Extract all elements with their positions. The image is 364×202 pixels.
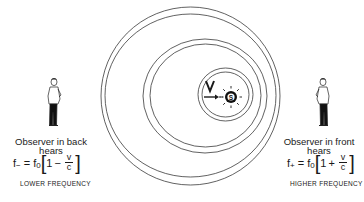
formula-operator: − xyxy=(54,157,60,169)
source-label: S xyxy=(229,94,234,101)
observer-right-formula: f + = f 0 [ 1 + v c ] xyxy=(287,153,355,172)
formula-denominator: c xyxy=(67,163,72,172)
observer-right-figure xyxy=(316,78,329,125)
wavefront-inner-2 xyxy=(202,72,249,117)
velocity-indicator xyxy=(204,81,219,100)
observer-left-result: LOWER FREQUENCY xyxy=(20,180,91,187)
velocity-arrow-head xyxy=(215,95,219,100)
wavefront-middle-2 xyxy=(150,44,261,147)
formula-lhs-subscript: − xyxy=(16,161,21,170)
wavefronts xyxy=(101,7,280,185)
formula-equals: = xyxy=(298,157,304,169)
wavefront-middle-1 xyxy=(143,39,267,153)
observer-right-result: HIGHER FREQUENCY xyxy=(290,180,363,187)
wavefront-outer-2 xyxy=(105,14,276,177)
formula-one: 1 xyxy=(46,157,52,169)
velocity-v-glyph xyxy=(206,81,214,91)
formula-operator: + xyxy=(328,157,334,169)
formula-lhs-subscript: + xyxy=(290,161,295,170)
formula-fraction: v c xyxy=(65,153,74,172)
observer-left-figure xyxy=(48,78,61,125)
formula-equals: = xyxy=(24,157,30,169)
formula-open-bracket: [ xyxy=(315,153,321,172)
formula-fraction: v c xyxy=(339,153,348,172)
wavefront-inner-1 xyxy=(198,68,253,121)
formula-close-bracket: ] xyxy=(349,153,355,172)
observer-left-formula: f − = f 0 [ 1 − v c ] xyxy=(13,153,81,172)
formula-denominator: c xyxy=(341,163,346,172)
formula-close-bracket: ] xyxy=(75,153,81,172)
formula-one: 1 xyxy=(320,157,326,169)
formula-open-bracket: [ xyxy=(41,153,47,172)
